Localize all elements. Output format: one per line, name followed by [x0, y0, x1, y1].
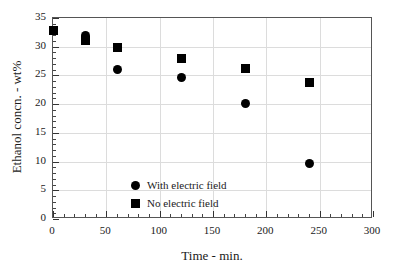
- legend-item: No electric field: [131, 194, 227, 212]
- y-tick-minor: [53, 24, 56, 25]
- y-tick-major: [53, 219, 59, 220]
- x-tick-minor: [117, 214, 118, 217]
- gridline-horizontal: [53, 75, 371, 76]
- y-tick-minor: [53, 93, 56, 94]
- y-tick-minor: [53, 35, 56, 36]
- x-tick-minor: [85, 214, 86, 217]
- data-point-square: [49, 26, 58, 35]
- x-tick-minor: [245, 214, 246, 217]
- y-tick-major: [53, 47, 59, 48]
- gridline-horizontal: [53, 47, 371, 48]
- gridline-vertical: [106, 18, 107, 217]
- y-tick-label: 0: [8, 212, 46, 223]
- data-point-square: [177, 54, 186, 63]
- x-tick-minor: [170, 214, 171, 217]
- x-tick-minor: [202, 214, 203, 217]
- x-tick-label: 200: [245, 225, 285, 236]
- chart-figure: Ethanol concn. - wt% With electric field…: [0, 0, 393, 273]
- y-tick-major: [53, 75, 59, 76]
- y-tick-minor: [53, 127, 56, 128]
- gridline-horizontal: [53, 104, 371, 105]
- legend-marker-circle-icon: [131, 181, 140, 190]
- y-tick-minor: [53, 121, 56, 122]
- data-point-circle: [305, 159, 314, 168]
- x-tick-minor: [96, 214, 97, 217]
- x-tick-minor: [234, 214, 235, 217]
- x-tick-minor: [138, 214, 139, 217]
- x-tick-major: [266, 211, 267, 217]
- x-tick-minor: [277, 214, 278, 217]
- gridline-horizontal: [53, 133, 371, 134]
- y-tick-label: 15: [8, 126, 46, 137]
- x-tick-major: [373, 211, 374, 217]
- legend-item: With electric field: [131, 176, 227, 194]
- y-tick-label: 25: [8, 68, 46, 79]
- y-tick-minor: [53, 208, 56, 209]
- x-tick-minor: [224, 214, 225, 217]
- y-tick-minor: [53, 156, 56, 157]
- x-tick-minor: [362, 214, 363, 217]
- x-tick-minor: [352, 214, 353, 217]
- x-tick-minor: [128, 214, 129, 217]
- y-tick-major: [53, 104, 59, 105]
- y-tick-major: [53, 190, 59, 191]
- x-tick-minor: [181, 214, 182, 217]
- x-tick-major: [53, 211, 54, 217]
- x-tick-major: [106, 211, 107, 217]
- y-tick-minor: [53, 64, 56, 65]
- y-tick-major: [53, 162, 59, 163]
- x-axis-title: Time - min.: [52, 248, 372, 263]
- data-point-circle: [113, 65, 122, 74]
- x-tick-minor: [192, 214, 193, 217]
- y-tick-minor: [53, 167, 56, 168]
- gridline-horizontal: [53, 162, 371, 163]
- x-tick-minor: [288, 214, 289, 217]
- y-tick-minor: [53, 87, 56, 88]
- data-point-circle: [241, 99, 250, 108]
- y-tick-minor: [53, 98, 56, 99]
- legend-label: With electric field: [147, 179, 227, 191]
- y-tick-major: [53, 18, 59, 19]
- plot-area: With electric fieldNo electric field: [52, 17, 372, 218]
- legend-label: No electric field: [147, 197, 218, 209]
- y-tick-major: [53, 133, 59, 134]
- y-tick-minor: [53, 116, 56, 117]
- y-tick-minor: [53, 52, 56, 53]
- x-tick-label: 0: [32, 225, 72, 236]
- y-tick-minor: [53, 58, 56, 59]
- chart-legend: With electric fieldNo electric field: [131, 176, 227, 212]
- y-tick-minor: [53, 150, 56, 151]
- y-tick-minor: [53, 70, 56, 71]
- x-tick-minor: [330, 214, 331, 217]
- y-tick-minor: [53, 81, 56, 82]
- y-tick-label: 35: [8, 11, 46, 22]
- y-tick-minor: [53, 196, 56, 197]
- y-tick-minor: [53, 179, 56, 180]
- x-tick-minor: [149, 214, 150, 217]
- x-tick-major: [320, 211, 321, 217]
- data-point-square: [305, 78, 314, 87]
- x-tick-label: 100: [139, 225, 179, 236]
- data-point-square: [113, 43, 122, 52]
- y-tick-label: 5: [8, 183, 46, 194]
- gridline-vertical: [320, 18, 321, 217]
- x-tick-label: 150: [192, 225, 232, 236]
- y-tick-minor: [53, 173, 56, 174]
- y-tick-minor: [53, 185, 56, 186]
- gridline-vertical: [266, 18, 267, 217]
- legend-marker-square-icon: [131, 199, 140, 208]
- x-tick-minor: [64, 214, 65, 217]
- y-tick-minor: [53, 41, 56, 42]
- y-tick-label: 20: [8, 97, 46, 108]
- y-tick-minor: [53, 202, 56, 203]
- y-tick-label: 30: [8, 40, 46, 51]
- x-tick-minor: [256, 214, 257, 217]
- x-tick-label: 50: [85, 225, 125, 236]
- y-tick-label: 10: [8, 155, 46, 166]
- x-tick-minor: [309, 214, 310, 217]
- x-tick-minor: [341, 214, 342, 217]
- x-tick-label: 250: [299, 225, 339, 236]
- y-tick-minor: [53, 139, 56, 140]
- data-point-square: [241, 64, 250, 73]
- y-tick-minor: [53, 144, 56, 145]
